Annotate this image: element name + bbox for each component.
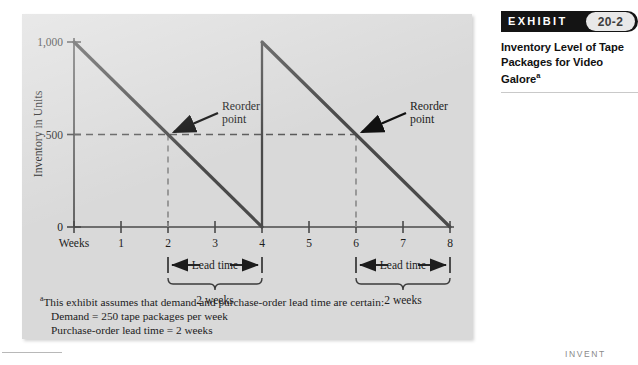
y-tick-label-500: 500 [46, 129, 64, 141]
exhibit-banner: EXHIBIT 20-2 [501, 11, 638, 32]
x-tick-label-2: 2 [165, 237, 171, 249]
footnote-line-3: Purchase-order lead time = 2 weeks [40, 323, 440, 337]
footnote-line-1: aThis exhibit assumes that demand and pu… [40, 292, 440, 309]
exhibit-header-divider [501, 92, 638, 93]
x-axis-title: Weeks [59, 237, 90, 249]
exhibit-header: EXHIBIT 20-2 Inventory Level of Tape Pac… [501, 11, 638, 86]
x-tick-label-7: 7 [400, 237, 406, 249]
reorder-label-1-line-1: Reorder [222, 99, 260, 113]
exhibit-title-line-3: Galore [501, 73, 536, 85]
x-tick-label-1: 1 [118, 237, 124, 249]
footnote-line-1-text: This exhibit assumes that demand and pur… [43, 296, 384, 308]
x-tick-label-5: 5 [306, 237, 312, 249]
x-tick-label-8: 8 [447, 237, 453, 249]
exhibit-title-line-1: Inventory Level of Tape [501, 41, 624, 53]
x-tick-label-4: 4 [259, 237, 265, 249]
reorder-label-1-line-2: point [222, 112, 247, 126]
lead-time-label-2: Lead time [380, 259, 426, 271]
exhibit-number-badge: 20-2 [586, 12, 635, 31]
reorder-point-annotation-2: Reorder point [362, 99, 448, 132]
y-tick-label-1000: 1,000 [37, 36, 63, 49]
chart-axes [74, 38, 454, 227]
reorder-point-annotation-1: Reorder point [174, 99, 260, 132]
exhibit-title-line-2: Packages for Video [501, 56, 603, 68]
exhibit-title-footnote-marker: a [536, 71, 540, 80]
reorder-label-2-line-1: Reorder [410, 99, 448, 113]
reorder-label-2-line-2: point [410, 112, 435, 126]
inventory-level-series [74, 42, 450, 227]
exhibit-banner-label: EXHIBIT [501, 16, 568, 27]
y-axis-title: Inventory in Units [31, 90, 45, 177]
lead-time-label-1: Lead time [192, 259, 238, 271]
x-tick-label-6: 6 [353, 237, 359, 249]
page-bottom-rule [2, 352, 62, 353]
footnote-line-2: Demand = 250 tape packages per week [40, 309, 440, 323]
page-running-footer: INVENT [565, 349, 638, 359]
inventory-chart: 1,000 500 0 Inventory in Units Weeks 1 2… [22, 14, 472, 339]
y-tick-label-0: 0 [57, 221, 63, 233]
exhibit-footnote: aThis exhibit assumes that demand and pu… [40, 292, 440, 337]
exhibit-title: Inventory Level of Tape Packages for Vid… [501, 40, 633, 86]
chart-panel: 1,000 500 0 Inventory in Units Weeks 1 2… [22, 14, 472, 339]
x-tick-label-3: 3 [212, 237, 218, 249]
